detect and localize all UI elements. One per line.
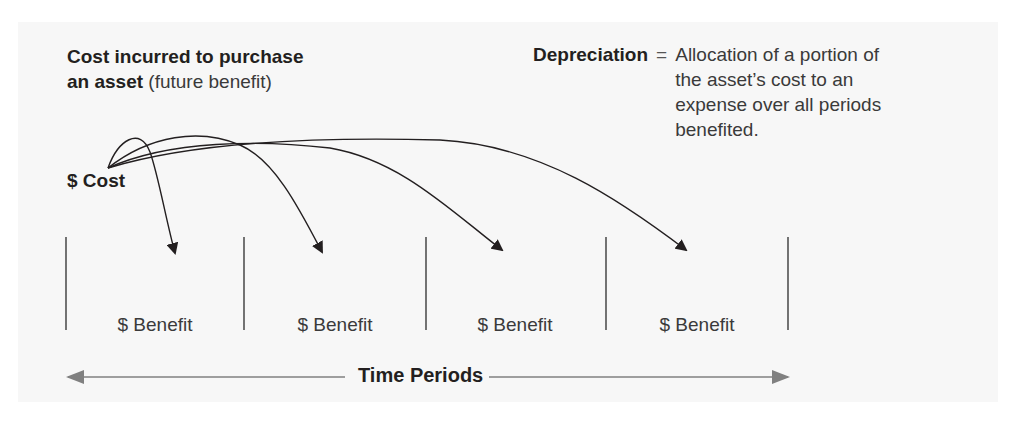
time-periods-label: Time Periods [352,364,489,387]
allocation-arrows [108,136,686,253]
period-benefit-1: $ Benefit [66,314,244,336]
allocation-arrow-period-4 [108,139,686,250]
period-benefit-2: $ Benefit [246,314,424,336]
period-benefit-3: $ Benefit [426,314,604,336]
allocation-arrow-period-2 [108,136,322,252]
allocation-arrow-period-3 [108,143,502,250]
period-benefit-4: $ Benefit [608,314,786,336]
allocation-diagram [0,0,1012,421]
